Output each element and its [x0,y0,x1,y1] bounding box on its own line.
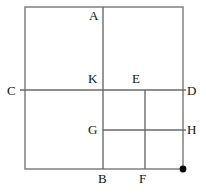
point-label-F: F [139,172,146,185]
point-label-E: E [132,72,140,85]
point-label-B: B [98,172,107,185]
point-label-C: C [7,84,16,97]
point-label-G: G [88,123,97,136]
point-label-A: A [89,9,98,22]
point-label-K: K [88,72,97,85]
point-label-H: H [187,123,196,136]
geometry-canvas [0,0,206,196]
geometry-figure: A K E C D G H B F [0,0,206,196]
corner-dot-marker [180,166,187,173]
outer-square [25,7,183,169]
point-label-D: D [187,84,196,97]
